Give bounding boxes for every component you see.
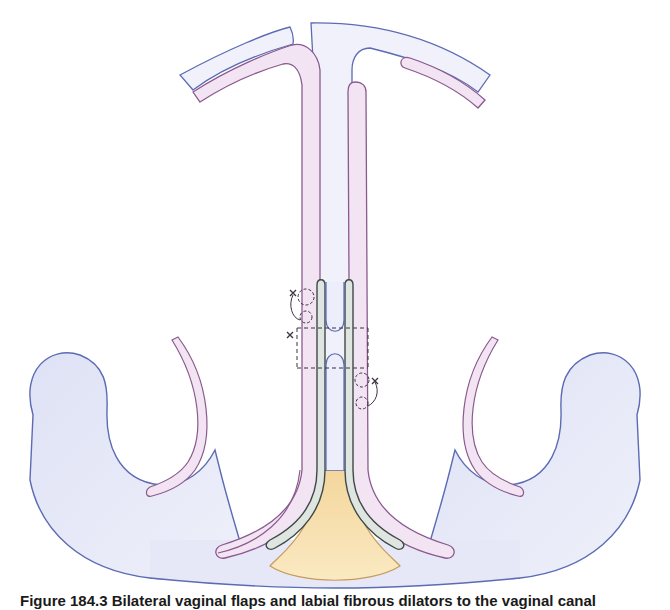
figure-caption: Figure 184.3 Bilateral vaginal flaps and… bbox=[20, 592, 670, 610]
central-canal bbox=[326, 282, 344, 470]
